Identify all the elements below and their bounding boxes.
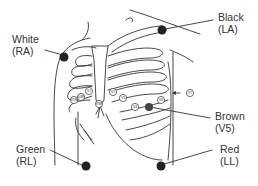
label-green-rl: Green (RL) <box>16 143 45 167</box>
sternum <box>92 46 108 106</box>
electrode-rl <box>82 162 91 171</box>
electrode-label-v6: V6 <box>159 98 163 102</box>
electrode-label-v2: V2 <box>111 90 115 94</box>
label-red-position: (LL) <box>220 155 239 167</box>
label-white-color: White <box>12 33 39 45</box>
label-black-la: Black (LA) <box>218 11 244 35</box>
label-brown-v5: Brown (V5) <box>215 110 245 134</box>
label-brown-color: Brown <box>215 110 245 122</box>
electrode-label-v4r: V4R <box>78 95 85 99</box>
label-green-color: Green <box>16 143 45 155</box>
electrode-label-v3: V3 <box>121 96 125 100</box>
label-red-color: Red <box>220 143 239 155</box>
electrode-label-v1: V1 <box>87 89 91 93</box>
label-white-ra: White (RA) <box>12 33 39 57</box>
brown-leader <box>150 107 210 118</box>
label-black-color: Black <box>218 11 244 23</box>
label-white-position: (RA) <box>12 45 39 57</box>
ecg-placement-diagram: V5R V4R V1 V3R V2 V3 V4 V6 V7 White (RA)… <box>0 0 258 186</box>
electrode-ra <box>60 53 69 62</box>
electrode-la <box>158 26 167 35</box>
label-green-position: (RL) <box>16 155 45 167</box>
left-clavicle <box>108 26 166 52</box>
electrode-v5-brown <box>145 103 153 111</box>
black-leader <box>160 20 213 30</box>
label-black-position: (LA) <box>218 23 244 35</box>
electrode-ll <box>157 162 166 171</box>
electrode-label-v7: V7 <box>188 91 192 95</box>
electrode-label-v3r: V3R <box>96 102 103 106</box>
label-red-ll: Red (LL) <box>220 143 239 167</box>
electrode-label-v4: V4 <box>133 105 137 109</box>
label-brown-position: (V5) <box>215 122 245 134</box>
costal-margin <box>106 114 162 160</box>
